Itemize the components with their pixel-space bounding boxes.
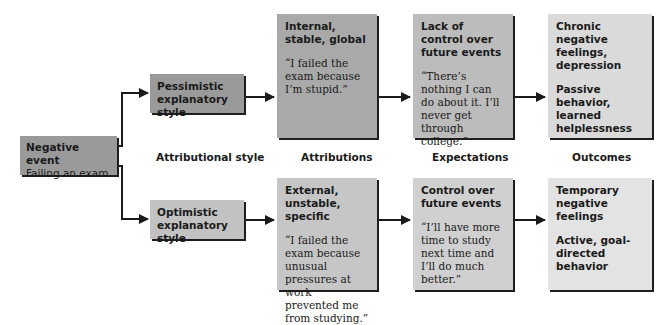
negative-event-box: Negative event Failing an exam bbox=[20, 136, 117, 175]
arrow-right-icon bbox=[117, 166, 148, 219]
optimistic-outcome-box: Temporary negative feelings Active, goal… bbox=[548, 178, 652, 290]
optimistic-expectation-quote: “I’ll have more time to study next time … bbox=[421, 221, 505, 286]
optimistic-attribution-box: External, unstable, specific “I failed t… bbox=[277, 178, 377, 290]
pessimistic-outcome-detail: Passive behavior, learned helplessness bbox=[556, 83, 644, 135]
column-label-attributional-style: Attributional style bbox=[156, 151, 264, 163]
optimistic-attribution-title: External, unstable, specific bbox=[285, 184, 369, 223]
pessimistic-outcome-title: Chronic negative feelings, depression bbox=[556, 20, 644, 72]
column-label-outcomes: Outcomes bbox=[572, 151, 631, 163]
pessimistic-style-box: Pessimistic explanatory style bbox=[150, 74, 244, 113]
optimistic-style-box: Optimistic explanatory style bbox=[150, 200, 244, 239]
arrow-right-icon bbox=[117, 93, 148, 146]
optimistic-attribution-quote: “I failed the exam because unusual press… bbox=[285, 234, 369, 325]
pessimistic-outcome-box: Chronic negative feelings, depression Pa… bbox=[548, 14, 652, 138]
optimistic-outcome-title: Temporary negative feelings bbox=[556, 184, 644, 223]
pessimistic-expectation-title: Lack of control over future events bbox=[421, 20, 505, 59]
negative-event-title: Negative event bbox=[26, 141, 111, 167]
pessimistic-expectation-box: Lack of control over future events “Ther… bbox=[413, 14, 513, 138]
pessimistic-style-title: Pessimistic explanatory style bbox=[157, 80, 237, 119]
pessimistic-attribution-box: Internal, stable, global “I failed the e… bbox=[277, 14, 377, 138]
optimistic-expectation-title: Control over future events bbox=[421, 184, 505, 210]
pessimistic-attribution-quote: “I failed the exam because I’m stupid.” bbox=[285, 57, 369, 96]
pessimistic-attribution-title: Internal, stable, global bbox=[285, 20, 369, 46]
pessimistic-expectation-quote: “There’s nothing I can do about it. I’ll… bbox=[421, 70, 505, 148]
optimistic-expectation-box: Control over future events “I’ll have mo… bbox=[413, 178, 513, 290]
optimistic-style-title: Optimistic explanatory style bbox=[157, 206, 237, 245]
negative-event-subtitle: Failing an exam bbox=[26, 167, 111, 180]
column-label-expectations: Expectations bbox=[432, 151, 508, 163]
column-label-attributions: Attributions bbox=[301, 151, 373, 163]
optimistic-outcome-detail: Active, goal-directed behavior bbox=[556, 234, 644, 273]
